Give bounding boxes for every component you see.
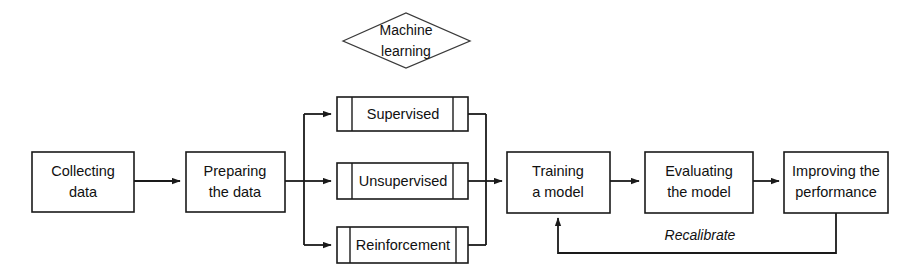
preparing-data-label-line1: Preparing bbox=[204, 163, 267, 179]
supervised-label: Supervised bbox=[367, 106, 440, 122]
preparing-data-label-line2: the data bbox=[209, 184, 262, 200]
machine-learning-label-line1: Machine bbox=[380, 22, 433, 38]
improving-the-performance-label-line2: performance bbox=[795, 184, 876, 200]
node-reinforcement: Reinforcement bbox=[337, 227, 468, 263]
improving-the-performance-label-line1: Improving the bbox=[792, 163, 880, 179]
node-preparing-data: Preparing the data bbox=[186, 152, 285, 212]
evaluating-the-model-label-line1: Evaluating bbox=[665, 163, 733, 179]
training-a-model-label-line1: Training bbox=[532, 163, 584, 179]
node-machine-learning: Machine learning bbox=[343, 13, 470, 68]
training-a-model-box-shape bbox=[507, 152, 610, 213]
recalibrate-edge-label: Recalibrate bbox=[665, 227, 736, 243]
collecting-data-label-line1: Collecting bbox=[51, 163, 115, 179]
machine-learning-label-line2: learning bbox=[381, 43, 431, 59]
training-a-model-label-line2: a model bbox=[532, 184, 584, 200]
node-evaluating-the-model: Evaluating the model bbox=[645, 152, 753, 213]
node-unsupervised: Unsupervised bbox=[337, 163, 468, 199]
collecting-data-box-shape bbox=[32, 152, 134, 212]
improving-the-performance-box-shape bbox=[784, 152, 888, 213]
flowchart-canvas: Machine learning Collecting data Prepari… bbox=[0, 0, 923, 276]
node-training-a-model: Training a model bbox=[507, 152, 610, 213]
reinforcement-label: Reinforcement bbox=[356, 237, 450, 253]
collecting-data-label-line2: data bbox=[69, 184, 98, 200]
flowchart-svg: Machine learning Collecting data Prepari… bbox=[0, 0, 923, 276]
node-supervised: Supervised bbox=[337, 97, 468, 131]
unsupervised-label: Unsupervised bbox=[359, 173, 448, 189]
evaluating-the-model-label-line2: the model bbox=[667, 184, 731, 200]
node-collecting-data: Collecting data bbox=[32, 152, 134, 212]
evaluating-the-model-box-shape bbox=[645, 152, 753, 213]
preparing-data-box-shape bbox=[186, 152, 285, 212]
node-improving-the-performance: Improving the performance bbox=[784, 152, 888, 213]
